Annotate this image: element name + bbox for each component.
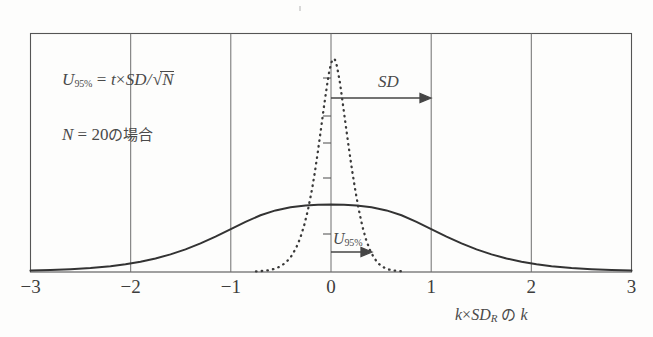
xtick-label-minus2: −2 [111,276,151,298]
sd-arrow [331,94,431,103]
formula-n-symbol: N [162,70,174,89]
axis-title-k2: k [520,306,527,323]
axis-title-times: × [462,306,471,323]
u95-arrow-label: U95% [333,230,362,248]
sample-size-condition: N = 20の場合 [62,123,153,145]
grid-lines [131,34,532,273]
u95-label-symbol: U [333,230,345,247]
condition-n-symbol: N [62,125,73,144]
sd-arrow-label: SD [378,72,399,92]
formula-times: × [116,70,126,89]
axis-title-sub-r: R [491,312,498,324]
xtick-label-zero: 0 [311,276,351,298]
sd-arrow-head [420,94,431,103]
formula-u-symbol: U [62,70,74,89]
condition-japanese: の場合 [108,126,153,144]
u95-label-subscript: 95% [345,237,363,248]
u95-arrow-head [361,248,372,257]
formula-equals: = [97,70,107,89]
chart-page: U95% = t×SD/√N N = 20の場合 SD U95% −3 −2 −… [0,0,653,337]
xtick-label-minus3: −3 [11,276,51,298]
formula-sd: SD [126,70,147,89]
xtick-label-plus1: 1 [411,276,451,298]
formula-sqrt-group: √N [152,70,174,89]
xtick-label-plus3: 3 [612,276,652,298]
axis-title-japanese: の [501,306,516,324]
formula-u-subscript: 95% [74,78,92,89]
condition-equals: = [78,125,88,144]
xtick-label-minus1: −1 [211,276,251,298]
u95-arrow [331,248,372,257]
condition-value: 20 [91,125,108,144]
sqrt-vinculum [160,71,174,72]
sqrt-icon: √ [153,70,163,89]
x-axis-title: k×SDR の k [455,303,528,324]
axis-title-sd: SD [471,306,491,323]
uncertainty-formula: U95% = t×SD/√N [62,70,174,90]
xtick-label-plus2: 2 [511,276,551,298]
